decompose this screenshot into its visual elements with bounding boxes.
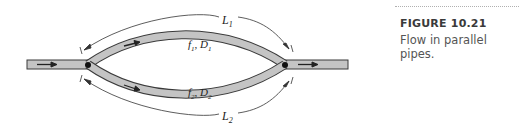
figure-number: FIGURE 10.21 — [400, 17, 487, 30]
lower-branch-pipe — [88, 65, 285, 95]
inlet-junction-node — [85, 62, 91, 68]
caption-divider — [395, 6, 519, 7]
upper-branch-pipe — [88, 35, 285, 65]
parallel-pipes-figure: L1 L2 f1, D1 f2, D2 FIGURE 10.21 Flow in… — [0, 0, 519, 129]
label-L2: L2 — [221, 109, 233, 125]
figure-caption: Flow in parallel pipes. — [400, 33, 519, 61]
label-L1: L1 — [221, 13, 233, 29]
label-pipe1-f-D: f1, D1 — [188, 38, 212, 53]
label-pipe2-f-D: f2, D2 — [188, 86, 212, 101]
outlet-junction-node — [282, 62, 288, 68]
